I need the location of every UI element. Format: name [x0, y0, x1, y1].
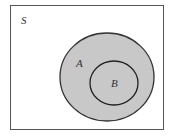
universe-label: S	[21, 14, 27, 26]
set-a-label: A	[75, 57, 83, 69]
set-b-label: B	[111, 77, 118, 89]
venn-diagram: S A B	[0, 0, 174, 138]
venn-svg: S A B	[0, 0, 174, 138]
